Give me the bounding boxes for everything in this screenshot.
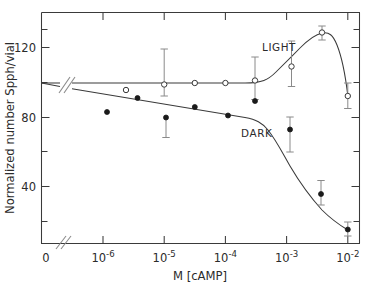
data-point-dark bbox=[288, 127, 293, 132]
figure-panel: 120 80 40 Normalized number Spph/vial 0 … bbox=[0, 0, 376, 284]
data-point-light bbox=[162, 82, 167, 87]
y-tick-label-40: 40 bbox=[21, 180, 36, 194]
x-tick-label-1e-3: 10-3 bbox=[275, 249, 298, 265]
data-point-dark bbox=[164, 115, 169, 120]
x-tick-labels: 0 10-6 10-5 10-4 10-3 10-2 bbox=[42, 249, 359, 265]
x-tick-label-1e-4: 10-4 bbox=[214, 249, 237, 265]
x-tick-mantissa: 10 bbox=[153, 251, 168, 265]
data-point-light bbox=[319, 30, 324, 35]
y-tick-label-120: 120 bbox=[14, 41, 36, 55]
x-tick-mantissa: 10 bbox=[275, 251, 290, 265]
y-tick-label-80: 80 bbox=[21, 111, 36, 125]
error-bar-light-1e-5 bbox=[161, 49, 168, 96]
plot-svg: 120 80 40 Normalized number Spph/vial 0 … bbox=[0, 0, 376, 284]
x-axis-break-icon bbox=[56, 236, 71, 249]
x-tick-exponent: -4 bbox=[228, 249, 237, 259]
data-point-light bbox=[123, 87, 128, 92]
x-tick-label-zero: 0 bbox=[42, 251, 49, 265]
plot-frame bbox=[42, 13, 360, 244]
annotation-light-label: LIGHT bbox=[262, 41, 296, 53]
dark-data-markers bbox=[105, 96, 351, 233]
data-point-dark bbox=[226, 113, 231, 118]
data-point-dark bbox=[135, 96, 140, 101]
x-tick-label-1e-5: 10-5 bbox=[153, 249, 176, 265]
data-point-light bbox=[192, 80, 197, 85]
data-point-dark bbox=[105, 110, 110, 115]
y-axis-ticks-right bbox=[352, 30, 360, 222]
y-axis-ticks bbox=[42, 30, 50, 222]
data-line-break-icon bbox=[59, 77, 75, 93]
x-axis-ticks bbox=[103, 236, 348, 244]
error-bar-dark-1.2e-3 bbox=[286, 117, 293, 152]
x-tick-exponent: -5 bbox=[167, 249, 176, 259]
x-tick-mantissa: 10 bbox=[214, 251, 229, 265]
error-bar-dark-1e-5 bbox=[162, 118, 169, 138]
data-point-dark bbox=[319, 192, 324, 197]
data-point-dark bbox=[253, 99, 258, 104]
data-point-light bbox=[252, 78, 257, 83]
x-tick-label-1e-2: 10-2 bbox=[336, 249, 359, 265]
data-point-light bbox=[223, 80, 228, 85]
x-tick-exponent: -2 bbox=[351, 249, 360, 259]
data-point-light bbox=[345, 93, 350, 98]
x-tick-mantissa: 10 bbox=[336, 251, 351, 265]
x-axis-ticks-top bbox=[103, 13, 348, 21]
annotation-dark-label: DARK bbox=[241, 127, 273, 139]
x-tick-label-1e-6: 10-6 bbox=[91, 249, 114, 265]
x-axis-title: M [cAMP] bbox=[173, 269, 227, 283]
data-point-dark bbox=[345, 227, 350, 232]
x-tick-mantissa: 10 bbox=[91, 251, 106, 265]
data-point-light bbox=[289, 64, 294, 69]
light-data-markers bbox=[123, 30, 350, 99]
y-axis-title: Normalized number Spph/vial bbox=[3, 42, 17, 214]
light-error-bars bbox=[161, 26, 352, 109]
data-point-dark bbox=[192, 105, 197, 110]
y-tick-labels: 120 80 40 bbox=[14, 41, 36, 194]
x-tick-exponent: -6 bbox=[106, 249, 115, 259]
x-tick-exponent: -3 bbox=[290, 249, 299, 259]
